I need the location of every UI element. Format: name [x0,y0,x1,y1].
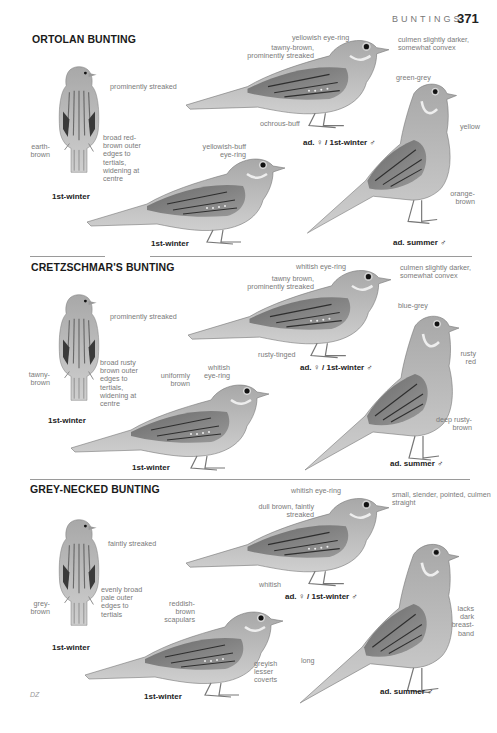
annotation-label: deep rusty-brown [432,416,472,432]
annotation-label: reddish-brown scapulars [150,600,195,625]
annotation-label: long [301,657,315,665]
bird-illustration-upright-view [295,312,465,472]
annotation-label: blue-grey [398,302,428,310]
figure-caption: ad. summer ♂ [380,687,433,696]
section-divider [150,256,472,257]
annotation-label: rusty-tinged [258,351,296,359]
annotation-label: lacks dark breast-band [450,605,474,638]
annotation-label: prominently streaked [110,313,177,321]
annotation-label: whitish [259,581,281,589]
annotation-label: prominently streaked [110,83,177,91]
figure-caption: 1st-winter [132,463,170,472]
artist-signature: DZ [30,691,39,698]
annotation-label: yellowish-buff eye-ring [200,143,246,159]
annotation-label: faintly streaked [108,540,156,548]
annotation-label: uniformly brown [160,372,190,388]
section-divider [30,256,105,257]
annotation-label: yellow [460,123,476,131]
annotation-label: dull brown, faintly streaked [256,503,314,519]
bird-illustration-side-view [78,152,296,247]
page-number: 371 [457,11,479,26]
annotation-label: yellowish eye-ring [292,34,349,42]
figure-caption: 1st-winter [151,239,189,248]
section-divider [30,479,470,480]
annotation-label: orange-brown [445,190,475,206]
bird-illustration-upright-view [290,540,465,705]
figure-caption: 1st-winter [144,692,182,701]
bird-illustration-side-view [62,378,280,473]
annotation-label: green-grey [396,74,431,82]
annotation-label: small, slender, pointed, culmen straight [392,491,492,507]
annotation-label: whitish eye-ring [296,263,346,271]
figure-caption: ad. summer ♂ [393,238,446,247]
annotation-label: earth-brown [28,143,50,159]
annotation-label: culmen slightly darker, somewhat convex [400,264,492,280]
annotation-label: tawny-brown [26,371,50,387]
species-title: GREY-NECKED BUNTING [30,483,160,495]
annotation-label: tawny brown, prominently streaked [244,275,314,291]
bird-illustration-upright-view [295,80,465,235]
annotation-label: ochrous-buff [260,120,300,128]
species-title: ORTOLAN BUNTING [32,33,136,45]
figure-caption: ad. summer ♂ [390,459,443,468]
annotation-label: tawny-brown, prominently streaked [246,44,314,60]
annotation-label: whitish eye-ring [202,364,230,380]
annotation-label: whitish eye-ring [291,487,341,495]
species-title: CRETZSCHMAR'S BUNTING [31,261,174,273]
annotation-label: grey-brown [26,600,50,616]
annotation-label: culmen slightly darker, somewhat convex [398,36,490,52]
annotation-label: greyish lesser coverts [254,660,282,685]
running-head: BUNTINGS [392,14,463,24]
annotation-label: rusty red [456,350,476,366]
